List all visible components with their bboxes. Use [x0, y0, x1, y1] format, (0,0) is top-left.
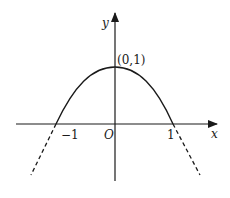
- x-axis-label: x: [211, 127, 218, 141]
- tick-label-pos-one: 1: [167, 128, 175, 142]
- curve-dashed-left: [31, 124, 56, 175]
- tick-label-neg-one: −1: [61, 128, 79, 142]
- y-axis-label: y: [101, 16, 109, 30]
- function-graph: y x O −1 1 (0,1): [0, 0, 230, 198]
- vertex-label: (0,1): [117, 53, 145, 67]
- curve-dashed-right: [173, 124, 200, 175]
- origin-label: O: [104, 128, 114, 142]
